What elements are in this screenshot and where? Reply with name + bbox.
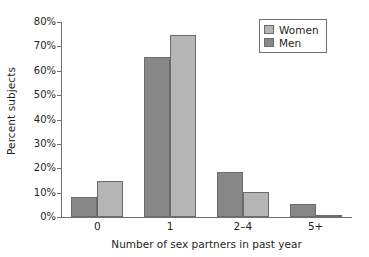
bar-men-1 — [144, 57, 170, 217]
bar-women-0 — [97, 181, 123, 217]
bar-women-5+ — [316, 215, 342, 217]
y-axis-tick-label: 50% — [22, 90, 56, 100]
y-axis-tick-label: 20% — [22, 163, 56, 173]
legend: Women Men — [259, 19, 327, 53]
bar-chart-figure: Percent subjects 0%10%20%30%40%50%60%70%… — [0, 0, 369, 257]
bar-men-0 — [71, 197, 97, 217]
x-axis-tick-labels: 012–45+ — [61, 220, 352, 236]
y-axis-tick-mark — [57, 193, 61, 194]
x-axis-tick-label: 1 — [167, 220, 174, 232]
y-axis-title: Percent subjects — [0, 0, 22, 222]
y-axis-tick-mark — [57, 217, 61, 218]
legend-swatch-men-icon — [264, 38, 274, 47]
y-axis-tick-mark — [57, 144, 61, 145]
y-axis-tick-label: 10% — [22, 188, 56, 198]
bar-men-24 — [217, 172, 243, 217]
y-axis-tick-mark — [57, 71, 61, 72]
x-axis-tick-label: 0 — [94, 220, 101, 232]
x-axis-line — [61, 217, 352, 218]
y-axis-tick-mark — [57, 46, 61, 47]
legend-swatch-women-icon — [264, 25, 274, 34]
bar-men-5+ — [290, 204, 316, 217]
y-axis-tick-labels: 0%10%20%30%40%50%60%70%80% — [22, 0, 60, 230]
y-axis-tick-label: 40% — [22, 115, 56, 125]
bar-women-1 — [170, 35, 196, 217]
y-axis-tick-label: 30% — [22, 139, 56, 149]
x-axis-tick-label: 5+ — [308, 220, 323, 232]
legend-label-women: Women — [279, 24, 319, 36]
y-axis-title-text: Percent subjects — [5, 67, 17, 155]
y-axis-tick-label: 0% — [22, 212, 56, 222]
y-axis-tick-mark — [57, 168, 61, 169]
y-axis-tick-mark — [57, 95, 61, 96]
legend-item-men: Men — [264, 36, 319, 49]
y-axis-tick-label: 60% — [22, 66, 56, 76]
legend-item-women: Women — [264, 23, 319, 36]
bar-women-24 — [243, 192, 269, 217]
legend-label-men: Men — [279, 37, 301, 49]
y-axis-tick-label: 70% — [22, 41, 56, 51]
x-axis-title: Number of sex partners in past year — [61, 238, 352, 250]
y-axis-tick-mark — [57, 22, 61, 23]
y-axis-tick-mark — [57, 120, 61, 121]
x-axis-tick-label: 2–4 — [234, 220, 253, 232]
y-axis-tick-label: 80% — [22, 17, 56, 27]
